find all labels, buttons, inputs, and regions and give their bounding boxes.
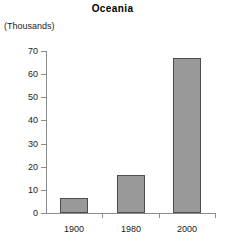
y-axis-tick-label: 20 (14, 163, 38, 172)
plot-area: 010203040506070 190019802000 (0, 0, 225, 243)
y-axis-tick-mark (41, 74, 46, 75)
y-axis-tick-mark (41, 213, 46, 214)
y-axis-tick-label: 60 (14, 70, 38, 79)
x-axis-line (46, 213, 216, 214)
y-axis-tick-label: 10 (14, 186, 38, 195)
bar-1900 (60, 198, 88, 213)
y-axis-tick-mark (41, 120, 46, 121)
y-axis-tick-label: 30 (14, 140, 38, 149)
y-axis-tick-mark (41, 97, 46, 98)
y-axis-tick-mark (41, 190, 46, 191)
x-axis-tick-label-1980: 1980 (108, 224, 154, 234)
bar-1980 (117, 175, 145, 213)
bar-chart: Oceania (Thousands) 010203040506070 1900… (0, 0, 225, 243)
x-axis-tick-mark (215, 213, 216, 218)
x-axis-tick-label-2000: 2000 (164, 224, 210, 234)
x-axis-tick-mark (159, 213, 160, 218)
y-axis-tick-mark (41, 51, 46, 52)
y-axis-tick-mark (41, 167, 46, 168)
y-axis-tick-label: 0 (14, 209, 38, 218)
y-axis-tick-label: 40 (14, 116, 38, 125)
y-axis-tick-mark (41, 144, 46, 145)
y-axis-tick-label: 70 (14, 47, 38, 56)
x-axis-tick-label-1900: 1900 (51, 224, 97, 234)
x-axis-tick-mark (102, 213, 103, 218)
y-axis-tick-label: 50 (14, 93, 38, 102)
bar-2000 (173, 58, 201, 213)
y-axis-line (46, 51, 47, 214)
